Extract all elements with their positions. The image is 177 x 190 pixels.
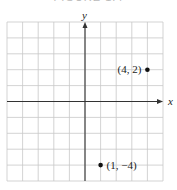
axes: xy <box>7 9 173 181</box>
data-point <box>145 67 150 72</box>
y-axis-label: y <box>81 9 87 21</box>
point-label: (4, 2) <box>118 63 142 76</box>
x-axis-arrow-icon <box>157 99 163 104</box>
point-label: (1, −4) <box>107 159 137 172</box>
coordinate-plane: xy (4, 2)(1, −4) <box>0 0 177 190</box>
data-point <box>98 163 103 168</box>
y-axis-arrow-icon <box>83 22 88 28</box>
x-axis-label: x <box>167 95 173 107</box>
